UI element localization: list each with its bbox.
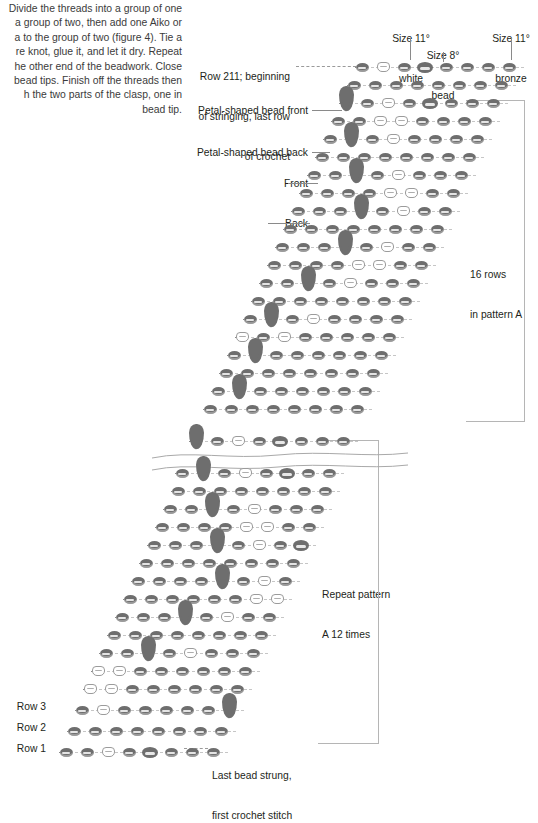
legend-size8-bead: Size 8° bead (414, 22, 472, 129)
bead-b (218, 667, 231, 676)
bead-b (294, 297, 307, 306)
bead-b (260, 469, 273, 478)
bead-b (189, 685, 202, 694)
bead-p (344, 122, 359, 147)
bead-p (264, 302, 279, 327)
bead-b (192, 631, 205, 640)
bead-b (148, 541, 161, 550)
bead-e (422, 98, 438, 109)
bead-b (116, 613, 129, 622)
bead-b (426, 189, 439, 198)
bead-b (329, 171, 342, 180)
bead-b (360, 243, 373, 252)
bead-b (60, 748, 73, 757)
bead-b (316, 153, 329, 162)
bead-b (158, 613, 171, 622)
bead-b (453, 81, 466, 90)
bead-e (293, 540, 309, 551)
bead-b (237, 577, 250, 586)
annotation-front-leader (288, 183, 318, 184)
bead-b (186, 748, 199, 757)
bead-b (208, 595, 221, 604)
bead-w (184, 648, 197, 658)
bead-b (336, 297, 349, 306)
bead-b (302, 469, 315, 478)
bead-b (312, 351, 325, 360)
bead-b (268, 261, 281, 270)
bead-b (305, 225, 318, 234)
bead-b (152, 727, 165, 736)
annotation-last-bead: Last bead strung, first crochet stitch (212, 742, 372, 823)
bead-b (160, 706, 173, 715)
bead-b (147, 685, 160, 694)
bead-b (390, 81, 403, 90)
bead-b (323, 469, 336, 478)
bead-b (270, 351, 283, 360)
bead-b (290, 505, 303, 514)
bead-b (200, 613, 213, 622)
bead-b (204, 405, 217, 414)
bead-b (391, 315, 404, 324)
bead-b (254, 387, 267, 396)
bead-b (140, 559, 153, 568)
bead-b (234, 631, 247, 640)
annotation-back-leader (268, 223, 310, 224)
annotation-petal-front-leader (312, 110, 342, 111)
bracket-16-rows (466, 100, 525, 422)
bead-b (324, 135, 337, 144)
bead-w (405, 188, 418, 198)
bead-b (232, 541, 245, 550)
bead-b (163, 649, 176, 658)
bead-p (196, 456, 211, 481)
bead-b (161, 559, 174, 568)
bead-p (232, 374, 247, 399)
bead-b (139, 706, 152, 715)
bead-w (382, 98, 395, 108)
bead-b (253, 437, 266, 446)
bead-w (278, 332, 291, 342)
bead-b (471, 135, 484, 144)
bead-p (301, 266, 316, 291)
bead-b (212, 387, 225, 396)
bead-b (292, 207, 305, 216)
bead-b (197, 667, 210, 676)
bead-b (383, 333, 396, 342)
bead-b (299, 333, 312, 342)
bead-b (195, 577, 208, 586)
bead-w (232, 436, 245, 446)
bead-b (337, 153, 350, 162)
bead-b (166, 595, 179, 604)
bead-b (439, 207, 452, 216)
bead-b (437, 117, 450, 126)
bead-b (89, 727, 102, 736)
bead-b (398, 63, 411, 72)
bead-b (247, 649, 260, 658)
bead-b (269, 505, 282, 514)
bead-p (189, 424, 204, 449)
bead-b (442, 153, 455, 162)
bead-b (231, 685, 244, 694)
bead-w (384, 188, 397, 198)
bead-b (134, 667, 147, 676)
instruction-line: Divide the threads into a group of one (0, 2, 182, 16)
bead-b (323, 279, 336, 288)
bead-b (277, 487, 290, 496)
bead-b (369, 81, 382, 90)
bead-b (211, 437, 224, 446)
bead-b (487, 99, 500, 108)
bead-b (368, 225, 381, 234)
bead-b (198, 523, 211, 532)
bead-w (374, 116, 387, 126)
bead-b (379, 153, 392, 162)
bead-w (239, 468, 252, 478)
bead-b (319, 487, 332, 496)
bead-b (445, 99, 458, 108)
bead-b (367, 369, 380, 378)
bead-b (303, 523, 316, 532)
bead-b (431, 225, 444, 234)
bead-w (344, 278, 357, 288)
bead-b (295, 437, 308, 446)
bead-b (357, 297, 370, 306)
bead-w (105, 684, 118, 694)
bead-b (407, 279, 420, 288)
